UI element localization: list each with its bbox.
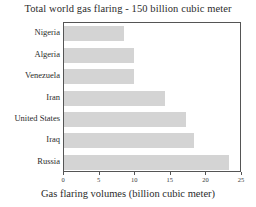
value-axis-ticks: 0510152025 bbox=[0, 172, 256, 186]
x-tick-label: 5 bbox=[97, 176, 100, 183]
bar-row bbox=[64, 155, 242, 170]
bar-row bbox=[64, 48, 242, 63]
bar bbox=[64, 155, 229, 170]
bar bbox=[64, 69, 134, 84]
x-tick-label: 20 bbox=[202, 176, 209, 183]
x-tick-label: 25 bbox=[238, 176, 245, 183]
bar-row bbox=[64, 69, 242, 84]
x-tick-mark bbox=[205, 172, 206, 175]
x-tick-label: 15 bbox=[167, 176, 174, 183]
bar bbox=[64, 48, 134, 63]
x-tick-mark bbox=[170, 172, 171, 175]
category-label: Iraq bbox=[0, 135, 60, 144]
chart-title: Total world gas flaring - 150 billion cu… bbox=[0, 3, 256, 14]
category-label: Venezuela bbox=[0, 71, 60, 80]
category-axis-labels: NigeriaAlgeriaVenezuelaIranUnited States… bbox=[0, 22, 60, 172]
x-tick-label: 10 bbox=[131, 176, 138, 183]
x-tick-mark bbox=[99, 172, 100, 175]
bar-row bbox=[64, 26, 242, 41]
category-label: Russia bbox=[0, 157, 60, 166]
bar bbox=[64, 26, 124, 41]
x-tick-label: 0 bbox=[61, 176, 64, 183]
bars-layer bbox=[64, 23, 240, 171]
x-tick-mark bbox=[63, 172, 64, 175]
category-label: Nigeria bbox=[0, 28, 60, 37]
category-label: Algeria bbox=[0, 50, 60, 59]
bar bbox=[64, 91, 165, 106]
bar-row bbox=[64, 112, 242, 127]
bar bbox=[64, 133, 194, 148]
category-label: United States bbox=[0, 114, 60, 123]
x-axis-title: Gas flaring volumes (billion cubic meter… bbox=[0, 188, 256, 199]
bar-row bbox=[64, 133, 242, 148]
bar bbox=[64, 112, 186, 127]
plot-area bbox=[63, 22, 241, 172]
chart-figure: Total world gas flaring - 150 billion cu… bbox=[0, 0, 256, 207]
x-tick-mark bbox=[241, 172, 242, 175]
x-tick-mark bbox=[134, 172, 135, 175]
bar-row bbox=[64, 91, 242, 106]
category-label: Iran bbox=[0, 93, 60, 102]
